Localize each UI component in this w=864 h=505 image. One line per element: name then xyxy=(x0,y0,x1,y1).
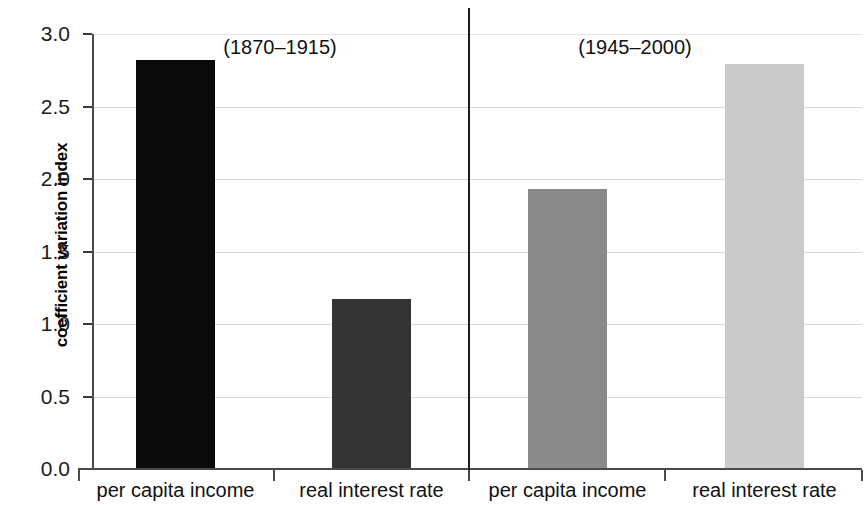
y-axis-tick xyxy=(83,33,92,35)
bar xyxy=(136,60,215,469)
y-axis-tick-label: 2.0 xyxy=(0,168,70,189)
x-axis-category-label: per capita income xyxy=(458,479,678,502)
y-axis-tick-label: 2.5 xyxy=(0,96,70,117)
group-label-1870-1915: (1870–1915) xyxy=(160,36,400,59)
y-axis-tick-label: 0.5 xyxy=(0,386,70,407)
y-axis-tick-label: 0.0 xyxy=(0,458,70,479)
bar xyxy=(725,64,804,469)
bar xyxy=(528,189,607,469)
y-axis-tick xyxy=(83,178,92,180)
plot-area: 3.02.52.01.51.00.50.0 xyxy=(92,34,862,469)
gridline xyxy=(92,34,862,35)
y-axis-line xyxy=(92,34,94,470)
y-axis-tick xyxy=(83,106,92,108)
group-divider-line xyxy=(468,8,470,470)
y-axis-tick xyxy=(83,323,92,325)
y-axis-tick-label: 1.0 xyxy=(0,313,70,334)
y-axis-tick-label: 3.0 xyxy=(0,23,70,44)
x-axis-line xyxy=(78,468,862,470)
x-axis-category-label: real interest rate xyxy=(262,479,482,502)
x-axis-category-label: real interest rate xyxy=(655,479,864,502)
bar xyxy=(332,299,411,469)
y-axis-tick xyxy=(83,396,92,398)
x-axis-category-label: per capita income xyxy=(66,479,286,502)
y-axis-tick-label: 1.5 xyxy=(0,241,70,262)
y-axis-tick xyxy=(83,251,92,253)
bar-chart: coefficient variation index 3.02.52.01.5… xyxy=(0,0,864,505)
group-label-1945-2000: (1945–2000) xyxy=(495,36,775,59)
